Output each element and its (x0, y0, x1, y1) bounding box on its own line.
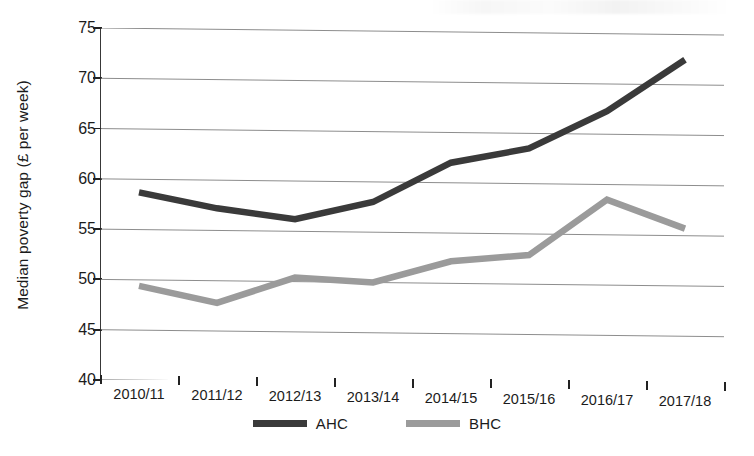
x-tick-label: 2011/12 (191, 387, 242, 403)
series-line-bhc (139, 200, 685, 303)
chart-figure: Median poverty gap (£ per week) 40455055… (0, 0, 754, 456)
gridline (100, 330, 724, 337)
scan-artifact (430, 0, 730, 14)
y-tick-label: 55 (62, 220, 96, 238)
x-tick-label: 2016/17 (581, 392, 633, 408)
legend-item-bhc[interactable]: BHC (406, 415, 501, 432)
legend-label: AHC (316, 415, 348, 432)
y-axis-title: Median poverty gap (£ per week) (14, 0, 36, 390)
y-axis-tick-labels: 4045505560657075 (56, 28, 96, 380)
x-tick-mark (100, 375, 102, 384)
gridline (100, 129, 724, 136)
y-tick-label: 60 (62, 170, 96, 188)
y-tick-label: 50 (62, 270, 96, 288)
x-tick-mark (724, 382, 726, 391)
x-tick-mark (568, 380, 570, 389)
gridline (100, 28, 724, 35)
y-tick-label: 75 (62, 19, 96, 37)
x-tick-mark (334, 378, 336, 387)
gridline (100, 78, 724, 85)
x-tick-label: 2014/15 (425, 390, 477, 406)
x-tick-label: 2013/14 (347, 389, 399, 405)
x-axis-tick-labels: 2010/112011/122012/132013/142014/152015/… (100, 384, 724, 408)
x-tick-mark (646, 381, 648, 390)
legend-label: BHC (469, 415, 501, 432)
legend-swatch-ahc (253, 420, 307, 427)
plot-area (100, 28, 724, 380)
gridline (100, 229, 724, 236)
gridline (100, 279, 724, 286)
y-tick-label: 65 (62, 120, 96, 138)
legend-item-ahc[interactable]: AHC (253, 415, 348, 432)
plot-svg (100, 28, 724, 380)
x-tick-mark (178, 376, 180, 385)
y-tick-label: 40 (62, 371, 96, 389)
x-tick-mark (256, 377, 258, 386)
legend-swatch-bhc (406, 420, 460, 427)
x-tick-label: 2015/16 (503, 391, 555, 407)
x-tick-label: 2010/11 (113, 386, 164, 402)
x-tick-label: 2012/13 (269, 388, 321, 404)
x-tick-mark (490, 379, 492, 388)
y-tick-label: 45 (62, 321, 96, 339)
x-tick-label: 2017/18 (659, 393, 711, 409)
chart-legend: AHCBHC (0, 415, 754, 432)
x-tick-mark (412, 379, 414, 388)
y-tick-label: 70 (62, 69, 96, 87)
